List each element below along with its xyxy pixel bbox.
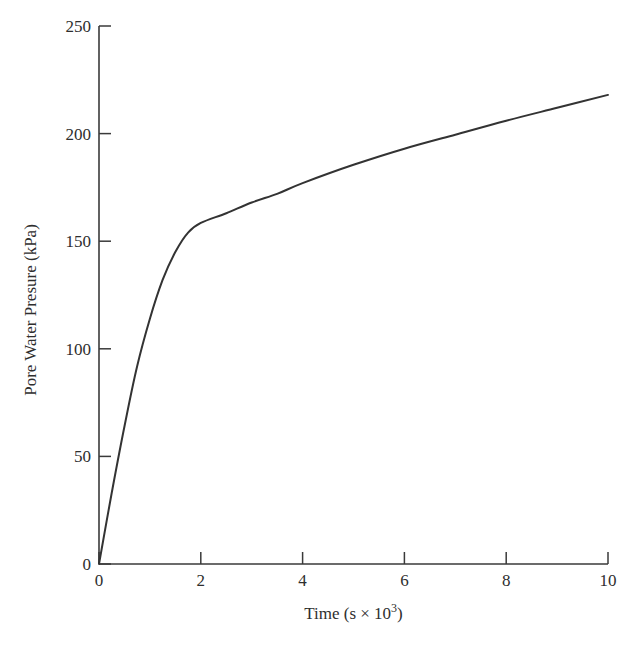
pore-pressure-chart: 050100150200250 0246810 Time (s × 103) P… <box>0 0 639 647</box>
y-tick-label: 150 <box>66 232 92 251</box>
y-tick-label: 50 <box>74 447 91 466</box>
x-axis-title: Time (s × 103) <box>304 601 403 623</box>
pore-pressure-curve <box>99 95 608 564</box>
y-tick-label: 100 <box>66 340 92 359</box>
y-tick-label: 250 <box>66 17 92 36</box>
x-tick-label: 0 <box>95 571 104 590</box>
y-axis-ticks: 050100150200250 <box>66 17 112 574</box>
x-tick-label: 8 <box>502 571 511 590</box>
y-tick-label: 200 <box>66 125 92 144</box>
x-tick-label: 10 <box>600 571 617 590</box>
x-tick-label: 4 <box>298 571 307 590</box>
x-axis-title-close: ) <box>397 604 403 623</box>
axes: 050100150200250 0246810 <box>66 17 617 590</box>
x-axis-ticks: 0246810 <box>95 552 617 590</box>
x-tick-label: 6 <box>400 571 409 590</box>
y-axis-title: Pore Water Presure (kPa) <box>21 224 40 396</box>
x-axis-title-main: Time (s × 10 <box>304 604 391 623</box>
y-tick-label: 0 <box>83 555 92 574</box>
x-tick-label: 2 <box>197 571 206 590</box>
